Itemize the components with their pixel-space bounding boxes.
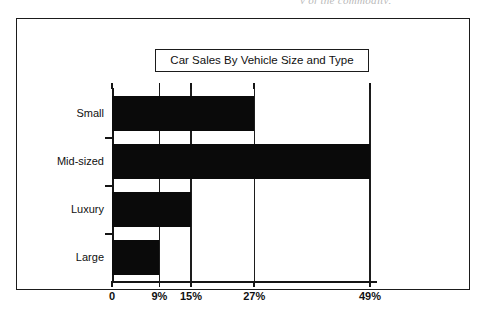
x-tick-label-15%: 15%	[180, 290, 202, 302]
x-tick-label-27%: 27%	[243, 290, 265, 302]
x-tick-15%	[190, 281, 192, 287]
x-tick-9%	[159, 281, 161, 287]
bar-large	[112, 240, 159, 275]
y-tick-2	[105, 185, 112, 187]
chart-title-box: Car Sales By Vehicle Size and Type	[155, 49, 369, 72]
category-label-large: Large	[76, 251, 104, 263]
x-tick-top-27%	[253, 83, 255, 89]
x-tick-label-9%: 9%	[151, 290, 167, 302]
x-tick-top-0	[111, 83, 113, 89]
gridline-49%	[369, 89, 370, 281]
x-tick-49%	[369, 281, 371, 287]
x-tick-top-15%	[190, 83, 192, 89]
x-tick-27%	[253, 281, 255, 287]
bar-luxury	[112, 192, 191, 227]
x-tick-top-49%	[369, 83, 371, 89]
y-tick-1	[105, 137, 112, 139]
category-label-mid-sized: Mid-sized	[57, 155, 104, 167]
y-tick-3	[105, 233, 112, 235]
x-tick-0	[111, 281, 113, 287]
plot-area: 09%15%27%49%	[112, 89, 370, 281]
x-tick-label-49%: 49%	[359, 290, 381, 302]
value-axis-line	[111, 281, 377, 283]
figure-frame: Car Sales By Vehicle Size and Type Small…	[16, 18, 470, 290]
category-label-small: Small	[76, 107, 104, 119]
x-tick-label-0: 0	[109, 290, 115, 302]
bar-mid-sized	[112, 144, 370, 179]
x-tick-top-9%	[159, 83, 161, 89]
category-label-luxury: Luxury	[71, 203, 104, 215]
chart-title: Car Sales By Vehicle Size and Type	[170, 55, 353, 67]
bar-small	[112, 96, 254, 131]
scanned-page-text-remnant: y of the commodity,	[300, 0, 480, 4]
category-axis-labels: Small Mid-sized Luxury Large	[17, 89, 104, 281]
